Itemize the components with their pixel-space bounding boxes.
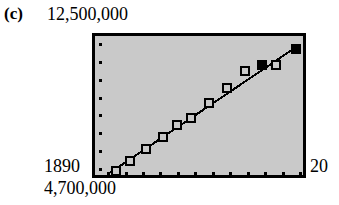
data-points: [112, 45, 300, 175]
figure-panel: (c) 12,500,000 1890 4,700,000 20: [0, 0, 339, 205]
panel-label: (c): [4, 4, 23, 24]
scatter-plot-svg: [95, 36, 309, 181]
x-axis-ticks: [107, 172, 302, 175]
trend-line: [110, 47, 295, 172]
x-axis-end-label: 20: [310, 155, 328, 177]
x-axis-start-label: 1890: [44, 155, 80, 177]
y-axis-max-label: 12,500,000: [47, 3, 128, 25]
y-axis-ticks: [99, 43, 102, 171]
plot-area: [92, 33, 306, 178]
